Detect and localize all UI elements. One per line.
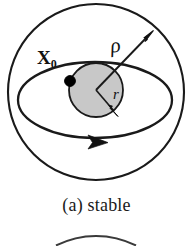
next-figure-top-arc	[56, 236, 136, 246]
label-point-x0: X0	[37, 48, 57, 70]
rho-arrowhead-icon	[144, 31, 153, 42]
label-r: r	[113, 87, 119, 102]
label-point-x0-base: X	[37, 47, 51, 68]
point-x0-marker	[65, 76, 76, 87]
figure-panel-a-stable: X0 ρ r (a) stable	[0, 0, 193, 246]
figure-caption: (a) stable	[0, 195, 193, 216]
label-point-x0-subscript: 0	[51, 57, 57, 71]
